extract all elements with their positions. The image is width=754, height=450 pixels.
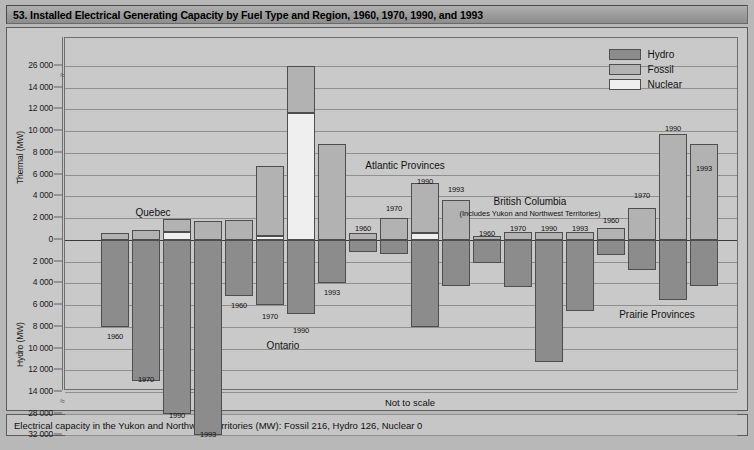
y-axis-tick-mark [54,282,62,283]
bar-year-label: 1993 [200,430,216,439]
y-axis-tick-mark [54,434,62,435]
bar-year-label: 1970 [262,312,278,321]
y-axis-tick-label: 10 000 [28,343,53,353]
gridline [65,435,737,436]
page-title: 53. Installed Electrical Generating Capa… [13,9,483,21]
legend-item: Nuclear [609,79,682,90]
legend: HydroFossilNuclear [609,49,682,90]
bar-year-label: 1993 [696,164,712,173]
legend-item: Fossil [609,64,682,75]
bar-year-label: 1990 [417,177,433,186]
region-sublabel: (Includes Yukon and Northwest Territorie… [459,209,600,218]
bar-segment-hydro [132,240,160,381]
bar-segment-hydro [628,240,656,270]
bar-segment-hydro [411,240,439,327]
y-axis-tick-label: 26 000 [28,60,53,70]
bar-segment-fossil [132,230,160,240]
bar-segment-hydro [659,240,687,300]
bar-segment-hydro [287,240,315,314]
chart-footnote-bar: Electrical capacity in the Yukon and Nor… [6,414,748,436]
not-to-scale-note: Not to scale [385,397,435,408]
y-axis-tick-mark [54,65,62,66]
region-label: Ontario [267,340,300,351]
y-axis-tick-label: 8 000 [33,321,53,331]
y-axis: 26 00014 00012 00010 0008 0006 0004 0002… [7,28,64,410]
bar-segment-hydro [442,240,470,286]
region-label: Atlantic Provinces [365,160,444,171]
legend-label: Nuclear [648,79,682,90]
region-label: Prairie Provinces [619,309,695,320]
axis-break-icon: ≈ [60,398,65,405]
y-axis-tick-mark [54,391,62,392]
y-axis-tick-mark [54,87,62,88]
bar-year-label: 1960 [107,332,123,341]
bar-segment-hydro [504,240,532,287]
bar-segment-fossil [411,183,439,233]
bar-segment-hydro [380,240,408,254]
bar-segment-fossil [225,220,253,240]
region-label: British Columbia [494,196,567,207]
y-axis-tick-label: 4 000 [33,190,53,200]
bar-segment-fossil [597,228,625,240]
bar-segment-hydro [101,240,129,327]
y-axis-tick-mark [54,217,62,218]
legend-label: Fossil [648,64,674,75]
bar-segment-hydro [535,240,563,362]
y-axis-tick-mark [54,348,62,349]
bar-segment-fossil [504,232,532,240]
bar-year-label: 1970 [138,375,154,384]
y-axis-tick-label: 2 000 [33,256,53,266]
y-axis-title-thermal: Thermal (MW) [15,131,25,184]
bar-year-label: 1960 [231,301,247,310]
y-axis-tick-label: 4 000 [33,277,53,287]
gridline [65,153,737,154]
bar-year-label: 1990 [169,411,185,420]
chart-title-bar: 53. Installed Electrical Generating Capa… [6,5,748,24]
bar-year-label: 1970 [386,204,402,213]
bar-segment-fossil [101,233,129,240]
y-axis-tick-mark [54,174,62,175]
bar-segment-fossil [628,208,656,240]
bar-year-label: 1970 [510,224,526,233]
bar-year-label: 1960 [355,224,371,233]
bar-segment-hydro [225,240,253,296]
bar-segment-fossil [287,66,315,113]
bar-segment-fossil [442,200,470,240]
y-axis-tick-mark [54,261,62,262]
bar-segment-hydro [473,240,501,263]
y-axis-tick-label: 6 000 [33,169,53,179]
bar-segment-hydro [690,240,718,286]
y-axis-tick-mark [54,413,62,414]
legend-swatch [609,79,641,90]
bar-segment-fossil [690,144,718,240]
bar-segment-fossil [380,218,408,240]
y-axis-tick-label: 10 000 [28,125,53,135]
y-axis-tick-label: 12 000 [28,103,53,113]
bar-year-label: 1960 [479,229,495,238]
bar-segment-hydro [566,240,594,311]
bar-year-label: 1990 [541,224,557,233]
chart-frame: 26 00014 00012 00010 0008 0006 0004 0002… [6,27,748,411]
y-axis-tick-mark [54,130,62,131]
bar-year-label: 1993 [448,185,464,194]
bar-segment-hydro [163,240,191,414]
y-axis-tick-label: 6 000 [33,299,53,309]
region-label: Quebec [135,207,170,218]
bar-segment-fossil [659,134,687,240]
y-axis-tick-label: 0 [48,234,53,244]
bar-segment-fossil [163,219,191,232]
gridline [65,175,737,176]
y-axis-tick-label: 32 000 [28,429,53,439]
plot-area: 1960197019901993Quebec1960197019901993On… [64,37,738,390]
bar-segment-hydro [256,240,284,305]
bar-year-label: 1990 [293,326,309,335]
legend-swatch [609,64,641,75]
bar-segment-hydro [194,240,222,435]
y-axis-tick-label: 8 000 [33,147,53,157]
bar-year-label: 1990 [665,124,681,133]
bar-year-label: 1993 [572,224,588,233]
bar-segment-nuclear [163,232,191,240]
bar-segment-hydro [597,240,625,255]
bar-segment-hydro [318,240,346,283]
y-axis-tick-label: 28 000 [28,408,53,418]
